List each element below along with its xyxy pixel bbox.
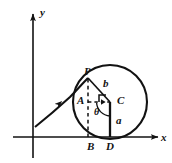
segment-label-b: b — [103, 78, 109, 89]
angle-tick-icon — [101, 99, 106, 105]
figure-canvas — [0, 0, 172, 163]
segment-label-a: a — [116, 115, 122, 126]
point-label-B: B — [87, 141, 94, 152]
y-axis-label: y — [40, 7, 45, 18]
angle-label-theta: θ — [94, 107, 99, 117]
point-label-D: D — [106, 141, 114, 152]
point-label-C: C — [117, 95, 124, 106]
geometry-figure: y x P A C B D b a θ — [0, 0, 172, 163]
point-label-A: A — [77, 95, 84, 106]
point-label-P: P — [84, 66, 91, 77]
x-axis-label: x — [161, 132, 167, 143]
